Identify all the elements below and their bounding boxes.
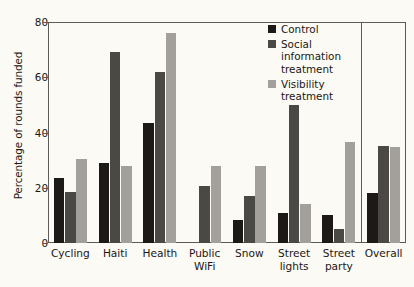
bar xyxy=(390,147,401,243)
y-tick-mark xyxy=(43,77,48,78)
bar xyxy=(110,52,121,243)
y-tick-mark xyxy=(43,22,48,23)
legend-swatch-icon xyxy=(268,80,276,88)
bar-group xyxy=(227,22,272,243)
bar xyxy=(54,178,65,243)
y-tick-mark xyxy=(43,188,48,189)
bar xyxy=(76,159,87,243)
legend-label: Control xyxy=(281,23,319,35)
bar xyxy=(199,186,210,243)
bar xyxy=(166,33,177,243)
x-tick-label: Cycling xyxy=(48,247,93,260)
x-tick-label: Snow xyxy=(227,247,272,260)
bar xyxy=(255,166,266,243)
bar xyxy=(322,215,333,243)
x-tick-label: Health xyxy=(138,247,183,260)
bar-group xyxy=(138,22,183,243)
legend-swatch-icon xyxy=(268,25,276,33)
bar xyxy=(367,193,378,243)
legend-label: Social information treatment xyxy=(281,38,341,75)
chart-legend: ControlSocial information treatmentVisib… xyxy=(268,23,378,105)
bar xyxy=(211,166,222,243)
bar-group xyxy=(93,22,138,243)
legend-item: Control xyxy=(268,23,378,35)
bar-group xyxy=(48,22,93,243)
bar xyxy=(378,146,389,243)
bar xyxy=(244,196,255,243)
legend-swatch-icon xyxy=(268,40,276,48)
bar xyxy=(65,192,76,243)
bar xyxy=(99,163,110,243)
legend-label: Visibility treatment xyxy=(281,78,333,102)
x-tick-label: Overall xyxy=(361,247,406,260)
x-tick-label: Haiti xyxy=(93,247,138,260)
bar xyxy=(289,105,300,243)
x-tick-label: Public WiFi xyxy=(182,247,227,272)
bar xyxy=(334,229,345,243)
x-tick-label: Street lights xyxy=(272,247,317,272)
legend-item: Social information treatment xyxy=(268,38,378,75)
y-tick-mark xyxy=(43,243,48,244)
legend-item: Visibility treatment xyxy=(268,78,378,102)
y-axis-ticks: 020406080 xyxy=(0,0,48,287)
bar xyxy=(278,213,289,243)
bar xyxy=(155,72,166,243)
bar xyxy=(233,220,244,243)
bar-chart-figure: Percentage of rounds funded 020406080 Cy… xyxy=(0,0,414,287)
bar xyxy=(121,166,132,243)
bar-group xyxy=(182,22,227,243)
y-tick-mark xyxy=(43,133,48,134)
x-tick-label: Street party xyxy=(317,247,362,272)
bar xyxy=(143,123,154,243)
bar xyxy=(345,142,356,243)
bar xyxy=(300,204,311,243)
